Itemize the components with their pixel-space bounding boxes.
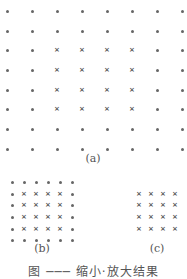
dot-marker-icon	[130, 127, 135, 132]
dot-marker-icon	[5, 127, 10, 132]
cross-marker-icon: ×	[137, 215, 142, 220]
dot-marker-icon	[5, 9, 10, 14]
dot-marker-icon	[130, 29, 135, 34]
dot-marker-icon	[70, 192, 75, 197]
cross-marker-icon: ×	[58, 192, 63, 197]
dot-marker-icon	[55, 9, 60, 14]
cross-marker-icon: ×	[130, 88, 135, 93]
cross-marker-icon: ×	[161, 192, 166, 197]
dot-marker-icon	[34, 180, 39, 185]
cross-marker-icon: ×	[105, 68, 110, 73]
panel-c-label: (c)	[150, 242, 165, 255]
dot-marker-icon	[105, 147, 110, 152]
cross-marker-icon: ×	[173, 215, 178, 220]
dot-marker-icon	[5, 48, 10, 53]
cross-marker-icon: ×	[58, 203, 63, 208]
dot-marker-icon	[30, 48, 35, 53]
dot-marker-icon	[30, 9, 35, 14]
dot-marker-icon	[5, 68, 10, 73]
cross-marker-icon: ×	[46, 227, 51, 232]
dot-marker-icon	[55, 147, 60, 152]
panel-a-label: (a)	[85, 152, 100, 165]
cross-marker-icon: ×	[149, 192, 154, 197]
dot-marker-icon	[155, 29, 160, 34]
dot-marker-icon	[46, 180, 51, 185]
cross-marker-icon: ×	[80, 68, 85, 73]
cross-marker-icon: ×	[137, 227, 142, 232]
cross-marker-icon: ×	[22, 215, 27, 220]
dot-marker-icon	[155, 48, 160, 53]
dot-marker-icon	[180, 127, 185, 132]
cross-marker-icon: ×	[80, 107, 85, 112]
figure-caption: 图 ─── 缩小·放大结果	[0, 262, 187, 279]
dot-marker-icon	[30, 107, 35, 112]
dot-marker-icon	[105, 29, 110, 34]
dot-marker-icon	[22, 180, 27, 185]
dot-marker-icon	[70, 227, 75, 232]
dot-marker-icon	[5, 107, 10, 112]
dot-marker-icon	[80, 9, 85, 14]
cross-marker-icon: ×	[137, 192, 142, 197]
cross-marker-icon: ×	[22, 192, 27, 197]
dot-marker-icon	[30, 29, 35, 34]
dot-marker-icon	[155, 107, 160, 112]
dot-marker-icon	[130, 9, 135, 14]
dot-marker-icon	[180, 88, 185, 93]
cross-marker-icon: ×	[149, 203, 154, 208]
cross-marker-icon: ×	[105, 88, 110, 93]
cross-marker-icon: ×	[55, 107, 60, 112]
cross-marker-icon: ×	[137, 203, 142, 208]
cross-marker-icon: ×	[173, 192, 178, 197]
cross-marker-icon: ×	[55, 48, 60, 53]
dot-marker-icon	[5, 147, 10, 152]
cross-marker-icon: ×	[46, 215, 51, 220]
cross-marker-icon: ×	[173, 227, 178, 232]
dot-marker-icon	[30, 127, 35, 132]
dot-marker-icon	[180, 147, 185, 152]
dot-marker-icon	[180, 9, 185, 14]
cross-marker-icon: ×	[46, 192, 51, 197]
cross-marker-icon: ×	[58, 215, 63, 220]
cross-marker-icon: ×	[34, 192, 39, 197]
cross-marker-icon: ×	[58, 227, 63, 232]
dot-marker-icon	[155, 127, 160, 132]
cross-marker-icon: ×	[34, 227, 39, 232]
dot-marker-icon	[22, 238, 27, 243]
dot-marker-icon	[55, 29, 60, 34]
dot-marker-icon	[80, 127, 85, 132]
dot-marker-icon	[155, 9, 160, 14]
cross-marker-icon: ×	[130, 48, 135, 53]
cross-marker-icon: ×	[80, 88, 85, 93]
dot-marker-icon	[58, 180, 63, 185]
cross-marker-icon: ×	[34, 203, 39, 208]
dot-marker-icon	[80, 29, 85, 34]
dot-marker-icon	[105, 127, 110, 132]
dot-marker-icon	[10, 227, 15, 232]
dot-marker-icon	[10, 238, 15, 243]
dot-marker-icon	[58, 238, 63, 243]
cross-marker-icon: ×	[149, 227, 154, 232]
dot-marker-icon	[10, 203, 15, 208]
cross-marker-icon: ×	[105, 107, 110, 112]
cross-marker-icon: ×	[161, 215, 166, 220]
dot-marker-icon	[180, 107, 185, 112]
dot-marker-icon	[155, 68, 160, 73]
dot-marker-icon	[30, 68, 35, 73]
cross-marker-icon: ×	[130, 68, 135, 73]
dot-marker-icon	[70, 203, 75, 208]
dot-marker-icon	[180, 68, 185, 73]
dot-marker-icon	[10, 215, 15, 220]
dot-marker-icon	[80, 147, 85, 152]
cross-marker-icon: ×	[55, 88, 60, 93]
dot-marker-icon	[5, 88, 10, 93]
dot-marker-icon	[130, 147, 135, 152]
dot-marker-icon	[155, 147, 160, 152]
dot-marker-icon	[30, 147, 35, 152]
dot-marker-icon	[180, 48, 185, 53]
cross-marker-icon: ×	[22, 227, 27, 232]
cross-marker-icon: ×	[22, 203, 27, 208]
cross-marker-icon: ×	[105, 48, 110, 53]
cross-marker-icon: ×	[80, 48, 85, 53]
cross-marker-icon: ×	[173, 203, 178, 208]
